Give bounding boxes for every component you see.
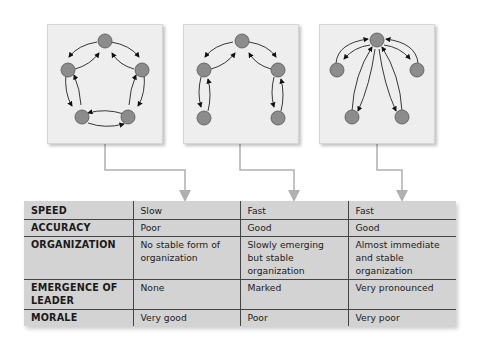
table-row: SPEED Slow Fast Fast bbox=[24, 201, 456, 220]
table-cell: Marked bbox=[240, 280, 348, 310]
network-comparison-table: SPEED Slow Fast Fast ACCURACY Poor Good … bbox=[24, 201, 456, 326]
table-cell: Fast bbox=[240, 201, 348, 220]
node bbox=[98, 34, 112, 48]
table-cell: Slowly emerging but stable organization bbox=[240, 237, 348, 280]
node bbox=[61, 63, 75, 77]
node bbox=[75, 110, 89, 124]
node bbox=[330, 63, 344, 77]
row-label: ACCURACY bbox=[24, 220, 133, 237]
circle-network-diagram bbox=[47, 24, 163, 144]
row-label: MORALE bbox=[24, 310, 133, 327]
table-cell: Good bbox=[348, 220, 456, 237]
table-cell: Fast bbox=[348, 201, 456, 220]
table-cell: Very poor bbox=[348, 310, 456, 327]
connector-wheel bbox=[377, 143, 402, 196]
node bbox=[197, 111, 211, 125]
node bbox=[410, 63, 424, 77]
node bbox=[121, 110, 135, 124]
node bbox=[271, 111, 285, 125]
table-cell: No stable form of organization bbox=[133, 237, 240, 280]
table-cell: Good bbox=[240, 220, 348, 237]
node bbox=[370, 33, 384, 47]
connector-chain bbox=[240, 143, 294, 196]
row-label: ORGANIZATION bbox=[24, 237, 133, 280]
table-cell: Very pronounced bbox=[348, 280, 456, 310]
connector-circle bbox=[105, 143, 185, 196]
table-row: EMERGENCE OF LEADER None Marked Very pro… bbox=[24, 280, 456, 310]
node bbox=[345, 110, 359, 124]
table-cell: Almost immediate and stable organization bbox=[348, 237, 456, 280]
table-row: ORGANIZATION No stable form of organizat… bbox=[24, 237, 456, 280]
node bbox=[135, 63, 149, 77]
node bbox=[197, 63, 211, 77]
chain-network-diagram bbox=[183, 24, 299, 144]
table-cell: Slow bbox=[133, 201, 240, 220]
row-label: SPEED bbox=[24, 201, 133, 220]
node bbox=[271, 63, 285, 77]
table-cell: Poor bbox=[133, 220, 240, 237]
table-cell: Very good bbox=[133, 310, 240, 327]
table-row: MORALE Very good Poor Very poor bbox=[24, 310, 456, 327]
table-cell: None bbox=[133, 280, 240, 310]
node bbox=[395, 110, 409, 124]
table-row: ACCURACY Poor Good Good bbox=[24, 220, 456, 237]
row-label: EMERGENCE OF LEADER bbox=[24, 280, 133, 310]
table-cell: Poor bbox=[240, 310, 348, 327]
wheel-network-diagram bbox=[319, 24, 435, 144]
node bbox=[235, 34, 249, 48]
